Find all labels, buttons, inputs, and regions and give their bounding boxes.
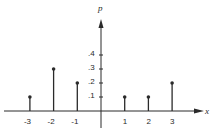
x-axis-arrow-icon (194, 109, 204, 114)
y-tick-label: .2 (88, 78, 95, 86)
x-tick-label: -1 (71, 118, 78, 126)
plot-canvas (0, 0, 214, 134)
y-tick-label: .3 (88, 64, 95, 72)
y-tick-label: .1 (88, 92, 95, 100)
x-tick-label: 2 (146, 118, 150, 126)
y-axis-arrow-icon (99, 19, 104, 28)
probability-stem-plot: .1.2.3.4-3-2-1123xp (0, 0, 214, 134)
stem-marker (52, 67, 56, 71)
stem-marker (170, 81, 174, 85)
stem-marker (147, 95, 151, 99)
y-axis-label: p (98, 4, 103, 13)
x-tick-label: -3 (24, 118, 31, 126)
x-tick-label: -2 (48, 118, 55, 126)
stem-marker (76, 81, 80, 85)
x-tick-label: 1 (123, 118, 127, 126)
x-tick-label: 3 (170, 118, 174, 126)
x-axis-label: x (205, 107, 209, 116)
stem-marker (28, 95, 32, 99)
y-tick-label: .4 (88, 50, 95, 58)
stem-marker (123, 95, 127, 99)
